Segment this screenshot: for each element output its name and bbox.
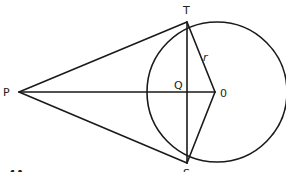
label-s: S	[183, 167, 190, 172]
label-o: 0	[220, 87, 227, 100]
radius-so	[187, 92, 215, 163]
figure-caption: 4A	[8, 168, 25, 172]
label-t: T	[182, 4, 190, 17]
label-p: P	[3, 86, 10, 99]
radius-to	[187, 22, 215, 92]
tangent-line-ps	[19, 92, 187, 163]
geometry-diagram: P T r Q 0 S 4A	[0, 0, 286, 172]
tangent-line-pt	[19, 22, 187, 92]
label-q: Q	[174, 79, 183, 92]
label-r: r	[203, 51, 209, 64]
